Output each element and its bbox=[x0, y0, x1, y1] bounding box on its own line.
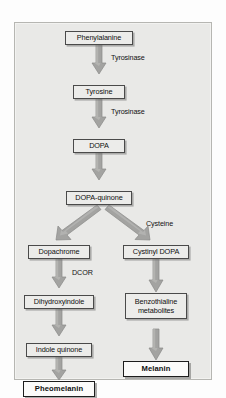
node-indole-quinone[interactable]: Indole quinone bbox=[26, 343, 92, 357]
arrow-dopa-to-dopa-quinone bbox=[91, 153, 107, 181]
node-pheomelanin[interactable]: Pheomelanin bbox=[23, 381, 95, 397]
node-cystinyl-dopa-label: Cystinyl DOPA bbox=[133, 248, 179, 257]
figure-canvas: Phenylalanine Tyrosine DOPA DOPA-quinone… bbox=[0, 0, 226, 398]
edge-label-cysteine: Cysteine bbox=[146, 219, 173, 228]
arrow-tyrosine-to-dopa bbox=[91, 99, 107, 129]
node-melanin[interactable]: Melanin bbox=[123, 361, 189, 377]
arrow-indole-quinone-to-pheomelanin bbox=[51, 357, 67, 381]
node-melanin-label: Melanin bbox=[142, 365, 171, 374]
arrow-phenylalanine-to-tyrosine bbox=[91, 45, 107, 75]
arrow-cystinyl-dopa-to-benzothialine bbox=[148, 259, 164, 293]
node-dopachrome[interactable]: Dopachrome bbox=[28, 245, 90, 259]
node-phenylalanine-label: Phenylalanine bbox=[77, 34, 122, 43]
node-dopachrome-label: Dopachrome bbox=[39, 248, 80, 257]
node-tyrosine-label: Tyrosine bbox=[86, 88, 113, 97]
arrow-dopa-quinone-to-dopachrome bbox=[39, 205, 101, 241]
node-dopa-quinone[interactable]: DOPA-quinone bbox=[66, 191, 132, 205]
node-dopa-label: DOPA bbox=[89, 142, 109, 151]
node-tyrosine[interactable]: Tyrosine bbox=[73, 85, 125, 99]
node-benzothialine-metabolites[interactable]: Benzothialine metabolites bbox=[125, 293, 187, 319]
node-phenylalanine[interactable]: Phenylalanine bbox=[65, 31, 133, 45]
node-dopa-quinone-label: DOPA-quinone bbox=[75, 194, 122, 203]
arrow-dihydroxyindole-to-indole-quinone bbox=[51, 309, 67, 337]
node-benzothialine-line-2: metabolites bbox=[138, 306, 174, 315]
node-cystinyl-dopa[interactable]: Cystinyl DOPA bbox=[123, 245, 189, 259]
node-indole-quinone-label: Indole quinone bbox=[36, 346, 82, 355]
edge-label-dcor: DCOR bbox=[72, 268, 93, 277]
node-dopa[interactable]: DOPA bbox=[73, 139, 125, 153]
node-dihydroxyindole[interactable]: Dihydroxyindole bbox=[24, 295, 94, 309]
arrow-dopachrome-to-dihydroxyindole bbox=[51, 259, 67, 289]
diagram-panel: Phenylalanine Tyrosine DOPA DOPA-quinone… bbox=[14, 22, 212, 380]
edge-label-tyrosinase-2: Tyrosinase bbox=[111, 107, 145, 116]
arrow-benzothialine-to-melanin bbox=[148, 329, 164, 361]
node-dihydroxyindole-label: Dihydroxyindole bbox=[34, 298, 84, 307]
node-pheomelanin-label: Pheomelanin bbox=[35, 385, 83, 394]
node-benzothialine-line-1: Benzothialine bbox=[135, 297, 178, 306]
edge-label-tyrosinase-1: Tyrosinase bbox=[111, 53, 145, 62]
